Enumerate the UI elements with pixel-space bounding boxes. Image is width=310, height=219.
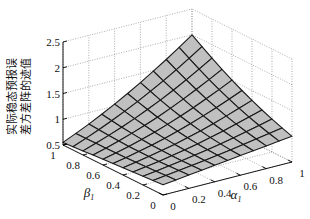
svg-text:差方差阵的迹值: 差方差阵的迹值 xyxy=(19,58,33,135)
alpha-tick-label: 0.2 xyxy=(192,193,206,205)
beta-tick-label: 0.4 xyxy=(106,179,120,191)
beta-tick-label: 0.8 xyxy=(66,159,80,171)
z-tick-label: 2 xyxy=(55,62,61,74)
svg-text:实际稳态预报误: 实际稳态预报误 xyxy=(5,58,19,135)
z-tick-label: 2.5 xyxy=(46,36,60,48)
beta-axis-label: β1 xyxy=(83,185,94,202)
alpha-tick-label: 0.6 xyxy=(244,180,258,192)
surface-plot: 0.511.522.500.20.40.60.8100.20.40.60.81β… xyxy=(0,0,310,219)
alpha-tick-label: 0 xyxy=(170,200,176,212)
z-tick-label: 1 xyxy=(55,113,61,125)
alpha-axis-label: α1 xyxy=(231,187,242,204)
beta-tick-label: 0.2 xyxy=(126,189,140,201)
beta-tick-label: 1 xyxy=(50,149,56,161)
beta-tick-label: 0.6 xyxy=(86,169,100,181)
z-axis-label: 实际稳态预报误差方差阵的迹值 xyxy=(5,58,33,135)
beta-tick-label: 0 xyxy=(150,199,156,211)
alpha-tick-label: 0.8 xyxy=(269,174,283,186)
z-tick-label: 1.5 xyxy=(46,88,60,100)
alpha-tick-label: 1 xyxy=(299,167,305,179)
